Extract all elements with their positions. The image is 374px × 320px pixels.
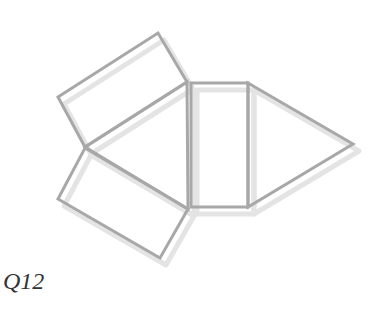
top-rectangle: [58, 33, 187, 147]
left-triangle-shadow: [91, 89, 194, 216]
question-label: Q12: [3, 268, 44, 295]
bottom-rectangle-shadow: [64, 155, 194, 265]
prism-net-diagram: [0, 0, 374, 320]
middle-rectangle: [191, 83, 248, 207]
shadow-layer: [64, 40, 359, 265]
middle-rectangle-shadow: [197, 90, 254, 214]
